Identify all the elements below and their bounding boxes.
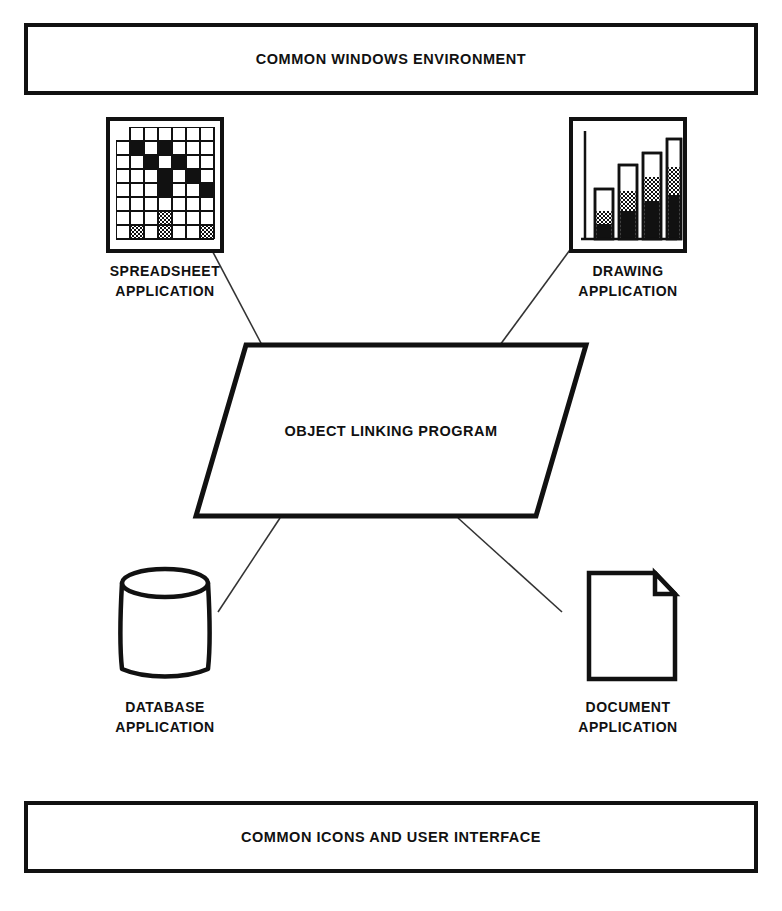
document-page-icon [563,563,693,689]
document-fold-corner [655,573,675,594]
node-spreadsheet-application: SPREADSHEET APPLICATION [60,117,270,302]
hub-label: OBJECT LINKING PROGRAM [196,343,586,518]
node-document-application: DOCUMENT APPLICATION [523,563,733,738]
node-document-caption-line1: DOCUMENT [523,698,733,718]
node-database-application: DATABASE APPLICATION [60,563,270,738]
node-document-caption: DOCUMENT APPLICATION [523,698,733,738]
chart-bar-2 [619,165,637,239]
spreadsheet-grid-art [116,127,222,251]
banner-bottom-label: COMMON ICONS AND USER INTERFACE [241,829,541,845]
node-spreadsheet-caption-line2: APPLICATION [60,282,270,302]
node-drawing-caption-line2: APPLICATION [523,282,733,302]
node-database-caption-line1: DATABASE [60,698,270,718]
cylinder-top-ellipse [122,569,208,597]
node-document-caption-line2: APPLICATION [523,718,733,738]
node-database-caption-line2: APPLICATION [60,718,270,738]
banner-common-icons-and-user-interface: COMMON ICONS AND USER INTERFACE [24,801,758,873]
node-spreadsheet-caption-line1: SPREADSHEET [60,262,270,282]
node-database-caption: DATABASE APPLICATION [60,698,270,738]
chart-bar-1 [595,189,613,239]
banner-top-label: COMMON WINDOWS ENVIRONMENT [256,51,526,67]
database-cylinder-art [100,563,230,689]
hub-object-linking-program: OBJECT LINKING PROGRAM [196,343,586,518]
spreadsheet-grid-icon [106,117,224,253]
bar-chart-icon [569,117,687,253]
database-cylinder-icon [100,563,230,689]
node-drawing-caption-line1: DRAWING [523,262,733,282]
node-spreadsheet-caption: SPREADSHEET APPLICATION [60,262,270,302]
banner-common-windows-environment: COMMON WINDOWS ENVIRONMENT [24,23,758,95]
node-drawing-application: DRAWING APPLICATION [523,117,733,302]
bar-chart-art [573,121,683,249]
chart-bar-4 [667,139,681,239]
node-drawing-caption: DRAWING APPLICATION [523,262,733,302]
diagram-canvas: COMMON WINDOWS ENVIRONMENT OBJECT LINKIN… [0,0,782,911]
chart-bar-3 [643,153,661,239]
document-page-art [563,563,693,689]
